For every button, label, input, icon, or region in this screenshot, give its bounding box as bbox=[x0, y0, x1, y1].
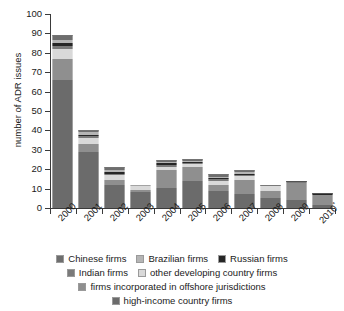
y-axis-title: number of ADR issues bbox=[13, 20, 23, 180]
legend-row: high-income country firms bbox=[0, 294, 344, 308]
legend-label: other developing country firms bbox=[150, 268, 277, 278]
y-tick-label: 50 bbox=[2, 106, 42, 116]
legend-swatch-icon bbox=[78, 283, 86, 291]
bar-segment bbox=[52, 49, 73, 59]
legend-label: firms incorporated in offshore jurisdict… bbox=[90, 282, 265, 292]
y-tick-label: 40 bbox=[2, 125, 42, 135]
legend-entry: Russian firms bbox=[218, 254, 288, 264]
bar-segment bbox=[260, 191, 281, 199]
legend-label: Indian firms bbox=[79, 268, 128, 278]
x-tick-mark bbox=[231, 209, 232, 214]
bar-2000 bbox=[52, 35, 73, 208]
legend-swatch-icon bbox=[218, 255, 226, 263]
legend-entry: high-income country firms bbox=[112, 296, 233, 306]
legend-label: high-income country firms bbox=[124, 296, 233, 306]
legend-swatch-icon bbox=[67, 269, 75, 277]
legend-label: Russian firms bbox=[230, 254, 288, 264]
legend-swatch-icon bbox=[138, 269, 146, 277]
y-tick-label: 80 bbox=[2, 48, 42, 58]
bar-segment bbox=[156, 170, 177, 187]
plot-area bbox=[50, 14, 335, 208]
chart-legend: Chinese firmsBrazilian firmsRussian firm… bbox=[0, 252, 344, 308]
legend-row: Chinese firmsBrazilian firmsRussian firm… bbox=[0, 252, 344, 266]
legend-label: Chinese firms bbox=[68, 254, 126, 264]
legend-entry: firms incorporated in offshore jurisdict… bbox=[78, 282, 265, 292]
x-tick-mark bbox=[50, 209, 51, 214]
legend-swatch-icon bbox=[112, 297, 120, 305]
x-tick-mark bbox=[257, 209, 258, 214]
y-tick-label: 70 bbox=[2, 67, 42, 77]
y-tick-label: 0 bbox=[2, 203, 42, 213]
legend-entry: Brazilian firms bbox=[136, 254, 208, 264]
legend-row: firms incorporated in offshore jurisdict… bbox=[0, 280, 344, 294]
y-tick-label: 60 bbox=[2, 87, 42, 97]
legend-swatch-icon bbox=[136, 255, 144, 263]
legend-entry: Chinese firms bbox=[56, 254, 126, 264]
legend-row: Indian firmsother developing country fir… bbox=[0, 266, 344, 280]
bar-segment bbox=[52, 59, 73, 80]
legend-label: Brazilian firms bbox=[148, 254, 208, 264]
y-tick-label: 10 bbox=[2, 184, 42, 194]
legend-entry: Indian firms bbox=[67, 268, 128, 278]
bar-segment bbox=[52, 80, 73, 208]
y-tick-label: 100 bbox=[2, 9, 42, 19]
y-tick-label: 90 bbox=[2, 28, 42, 38]
y-tick-label: 30 bbox=[2, 145, 42, 155]
bar-segment bbox=[234, 180, 255, 195]
bar-segment bbox=[286, 183, 307, 200]
legend-swatch-icon bbox=[56, 255, 64, 263]
bar-2001 bbox=[78, 130, 99, 208]
bar-segment bbox=[182, 167, 203, 181]
legend-entry: other developing country firms bbox=[138, 268, 277, 278]
adr-issues-stacked-bar-chart: number of ADR issues 0102030405060708090… bbox=[0, 0, 344, 311]
bar-segment bbox=[78, 144, 99, 152]
y-tick-label: 20 bbox=[2, 164, 42, 174]
